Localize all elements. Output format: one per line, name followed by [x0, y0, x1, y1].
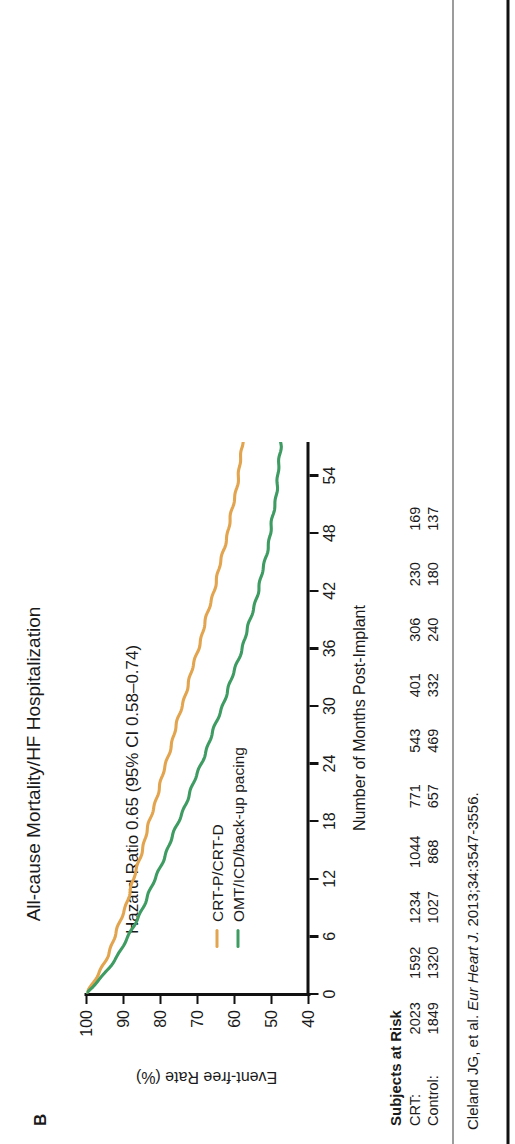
- risk-cell: 543: [405, 713, 423, 769]
- y-tick: [233, 995, 236, 1004]
- risk-row: Control:18491320102786865746933224018013…: [423, 491, 441, 1126]
- risk-row: CRT:2023159212341044771543401306230169: [405, 491, 423, 1126]
- citation-rule-thick: [506, 0, 509, 1144]
- x-tick-label: 42: [320, 582, 338, 600]
- legend-label-control: OMT/ICD/back-up pacing: [227, 747, 248, 922]
- y-tick-label: 80: [151, 1010, 169, 1040]
- x-tick-label: 0: [320, 990, 338, 999]
- figure-frame: B All-cause Mortality/HF Hospitalization…: [0, 0, 515, 1144]
- x-tick: [309, 820, 318, 823]
- kaplan-meier-curves: [86, 442, 308, 994]
- x-tick: [309, 762, 318, 765]
- chart-title: All-cause Mortality/HF Hospitalization: [22, 384, 44, 1144]
- citation-authors: Cleland JG, et al.: [463, 1011, 480, 1130]
- x-tick-label: 54: [320, 467, 338, 485]
- citation-journal: Eur Heart J.: [463, 931, 480, 1011]
- citation-rule-thin: [452, 0, 453, 1144]
- risk-table: CRT:2023159212341044771543401306230169Co…: [405, 491, 441, 1126]
- risk-cell: 1234: [405, 880, 423, 936]
- y-tick: [307, 995, 310, 1004]
- risk-cell: 1592: [405, 935, 423, 991]
- risk-cell: 657: [423, 769, 441, 825]
- plot-curves: [86, 442, 308, 994]
- x-axis-title: Number of Months Post-Implant: [350, 442, 368, 994]
- y-tick-label: 50: [262, 1010, 280, 1040]
- risk-cell: 1027: [423, 880, 441, 936]
- risk-cell: 1320: [423, 935, 441, 991]
- legend: CRT-P/CRT-D OMT/ICD/back-up pacing: [206, 747, 248, 948]
- risk-cell: 1044: [405, 824, 423, 880]
- risk-cell: 469: [423, 713, 441, 769]
- legend-item-control: OMT/ICD/back-up pacing: [227, 747, 248, 948]
- y-tick: [85, 995, 88, 1004]
- x-tick: [309, 705, 318, 708]
- risk-cell: 180: [423, 547, 441, 603]
- legend-item-crt: CRT-P/CRT-D: [206, 747, 227, 948]
- risk-cell: 240: [423, 602, 441, 658]
- slide-canvas: B All-cause Mortality/HF Hospitalization…: [0, 0, 515, 1144]
- y-tick: [270, 995, 273, 1004]
- legend-swatch-crt-icon: [215, 929, 218, 948]
- y-tick-label: 70: [188, 1010, 206, 1040]
- x-tick: [309, 647, 318, 650]
- x-tick-label: 48: [320, 524, 338, 542]
- x-tick: [309, 474, 318, 477]
- x-tick-label: 30: [320, 697, 338, 715]
- y-tick-label: 60: [225, 1010, 243, 1040]
- y-tick-label: 40: [299, 1010, 317, 1040]
- x-tick-label: 12: [320, 870, 338, 888]
- series-line-control: [86, 442, 281, 994]
- x-tick: [309, 993, 318, 996]
- risk-cell: 332: [423, 658, 441, 714]
- x-tick-label: 6: [320, 932, 338, 941]
- risk-cell: 771: [405, 769, 423, 825]
- legend-label-crt: CRT-P/CRT-D: [206, 824, 227, 922]
- risk-row-label: CRT:: [405, 1046, 423, 1126]
- risk-cell: 306: [405, 602, 423, 658]
- risk-cell: 230: [405, 547, 423, 603]
- risk-cell: 1849: [423, 991, 441, 1047]
- citation-locator: 2013;34:3547-3556.: [463, 792, 480, 930]
- y-tick: [159, 995, 162, 1004]
- risk-cell: 401: [405, 658, 423, 714]
- x-tick: [309, 935, 318, 938]
- subjects-at-risk-title: Subjects at Risk: [386, 491, 403, 1126]
- y-axis-title: Event-free Rate (%): [91, 1068, 321, 1086]
- risk-cell: 137: [423, 491, 441, 547]
- y-tick: [122, 995, 125, 1004]
- x-tick: [309, 590, 318, 593]
- y-tick-label: 100: [77, 1010, 95, 1040]
- risk-cell: 2023: [405, 991, 423, 1047]
- risk-row-label: Control:: [423, 1046, 441, 1126]
- subjects-at-risk: Subjects at Risk CRT:2023159212341044771…: [386, 491, 441, 1126]
- x-tick-label: 18: [320, 812, 338, 830]
- y-tick-label: 90: [114, 1010, 132, 1040]
- x-tick-label: 36: [320, 640, 338, 658]
- x-tick-label: 24: [320, 755, 338, 773]
- risk-cell: 868: [423, 824, 441, 880]
- risk-cell: 169: [405, 491, 423, 547]
- x-tick: [309, 878, 318, 881]
- x-tick: [309, 532, 318, 535]
- citation: Cleland JG, et al. Eur Heart J. 2013;34:…: [463, 792, 480, 1130]
- legend-swatch-control-icon: [236, 929, 239, 948]
- y-tick: [196, 995, 199, 1004]
